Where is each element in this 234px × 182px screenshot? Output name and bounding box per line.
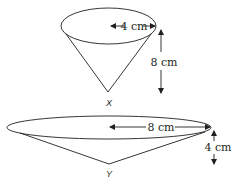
cones-diagram: 4 cm 8 cm X 8 cm 4 cm Y — [0, 0, 234, 182]
cone-y-top-ellipse — [7, 116, 211, 139]
cone-x-label: X — [105, 98, 113, 108]
cone-y: 8 cm 4 cm Y — [7, 116, 232, 179]
cone-y-height-label: 4 cm — [204, 141, 232, 154]
cone-x: 4 cm 8 cm X — [61, 8, 178, 108]
cone-y-label: Y — [106, 169, 113, 179]
cone-y-radius-label: 8 cm — [147, 121, 175, 134]
cone-x-radius-label: 4 cm — [120, 20, 148, 33]
cone-x-sides — [66, 34, 151, 92]
cone-x-height-label: 8 cm — [150, 56, 178, 69]
